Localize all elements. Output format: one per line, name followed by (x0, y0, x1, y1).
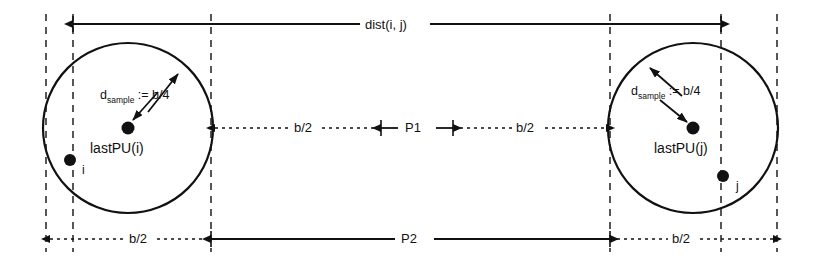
dsample-label-j: dsample := b/4 (631, 84, 700, 101)
dsample-subscript-j: sample (638, 91, 665, 101)
dsample-label-i: dsample := b/4 (100, 88, 169, 105)
dsample-subscript-i: sample (107, 95, 134, 105)
p2-left-b2-label: b/2 (129, 231, 147, 246)
p2-label: P2 (401, 231, 417, 246)
p1-label: P1 (405, 120, 421, 135)
dsample-symbol-i: d (100, 88, 107, 102)
dsample-value-i: := b/4 (138, 88, 170, 102)
dsample-leader-j-inner (660, 100, 687, 122)
node-j-label: j (736, 179, 739, 193)
p1-left-b2-label: b/2 (294, 120, 312, 135)
dsample-value-j: := b/4 (669, 84, 701, 98)
dsample-symbol-j: d (631, 84, 638, 98)
p1-right-b2-label: b/2 (516, 120, 534, 135)
node-i-label: i (82, 163, 85, 177)
dist-label: dist(i, j) (365, 17, 407, 32)
lastpu-j-dot (687, 122, 700, 135)
node-i-dot (64, 154, 76, 166)
lastpu-i-label: lastPU(i) (90, 140, 144, 156)
lastpu-i-dot (122, 122, 135, 135)
lastpu-j-label: lastPU(j) (654, 140, 708, 156)
diagram-canvas: dist(i, j) dsample := b/4 dsample := b/4… (0, 0, 820, 262)
p2-right-b2-label: b/2 (672, 231, 690, 246)
node-j-dot (717, 170, 729, 182)
